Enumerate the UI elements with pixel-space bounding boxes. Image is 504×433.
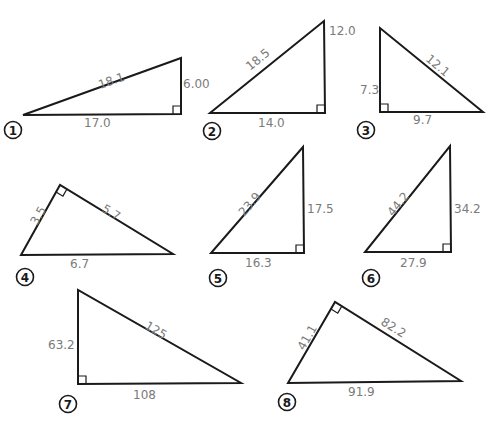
triangle-8: 41.182.291.98 <box>279 302 462 411</box>
triangle-7: 12563.21087 <box>48 290 241 413</box>
right-angle-marker <box>173 106 181 114</box>
svg-text:1: 1 <box>9 124 17 138</box>
side-length-label: 6.7 <box>70 257 89 271</box>
triangle-3: 12.17.39.73 <box>358 28 484 139</box>
problem-number-badge: 6 <box>363 270 380 287</box>
side-length-label: 34.2 <box>454 202 481 216</box>
side-length-label: 5.7 <box>99 202 123 224</box>
svg-text:8: 8 <box>283 396 291 410</box>
side-length-label: 9.7 <box>413 113 432 127</box>
triangle-worksheet: 18.16.0017.0118.512.014.0212.17.39.733.5… <box>0 0 504 433</box>
right-angle-marker <box>296 245 304 253</box>
problem-number-badge: 2 <box>204 123 221 140</box>
side-length-label: 91.9 <box>348 385 375 399</box>
right-angle-marker <box>317 105 325 113</box>
side-length-label: 6.00 <box>183 77 210 91</box>
svg-text:6: 6 <box>367 272 375 286</box>
triangle-5: 23.917.516.35 <box>210 147 334 287</box>
triangle-1: 18.16.0017.01 <box>5 58 210 139</box>
side-length-label: 7.3 <box>360 83 379 97</box>
side-length-label: 17.0 <box>84 116 111 130</box>
problem-number-badge: 5 <box>210 270 227 287</box>
side-length-label: 3.5 <box>27 204 49 228</box>
problem-number-badge: 8 <box>279 394 296 411</box>
triangles-diagram: 18.16.0017.0118.512.014.0212.17.39.733.5… <box>0 0 504 433</box>
right-angle-marker <box>78 376 86 384</box>
side-length-label: 63.2 <box>48 338 75 352</box>
problem-number-badge: 4 <box>17 269 34 286</box>
side-length-label: 44.2 <box>384 189 412 219</box>
side-length-label: 17.5 <box>307 202 334 216</box>
side-length-label: 14.0 <box>258 116 285 130</box>
side-length-label: 12.0 <box>329 24 356 38</box>
side-length-label: 18.1 <box>96 70 126 92</box>
svg-text:5: 5 <box>214 272 222 286</box>
triangle-outline <box>380 28 483 112</box>
svg-text:2: 2 <box>208 125 216 139</box>
problem-number-badge: 7 <box>60 396 77 413</box>
svg-text:7: 7 <box>64 398 72 412</box>
svg-text:4: 4 <box>21 271 29 285</box>
problem-number-badge: 1 <box>5 122 22 139</box>
triangle-2: 18.512.014.02 <box>204 21 356 140</box>
svg-text:3: 3 <box>362 124 370 138</box>
right-angle-marker <box>380 104 388 112</box>
side-length-label: 27.9 <box>400 256 427 270</box>
triangle-4: 3.55.76.74 <box>17 185 174 286</box>
side-length-label: 23.9 <box>236 190 264 219</box>
side-length-label: 41.1 <box>294 322 319 352</box>
problem-number-badge: 3 <box>358 122 375 139</box>
side-length-label: 18.5 <box>243 46 273 74</box>
side-length-label: 82.2 <box>378 315 408 341</box>
triangle-outline <box>288 302 461 383</box>
triangle-6: 44.234.227.96 <box>363 146 481 287</box>
triangle-outline <box>210 21 325 113</box>
side-length-label: 16.3 <box>245 256 272 270</box>
side-length-label: 125 <box>143 318 170 342</box>
right-angle-marker <box>443 244 451 252</box>
side-length-label: 108 <box>133 388 156 402</box>
